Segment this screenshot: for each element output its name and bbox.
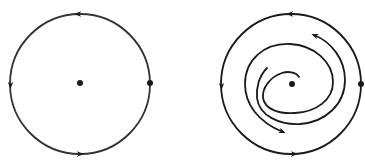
phase-portrait-canvas	[0, 0, 365, 166]
right-orbit-point	[358, 81, 364, 87]
left-panel	[10, 14, 153, 154]
left-orbit-point	[147, 80, 153, 86]
right-panel	[221, 14, 364, 154]
right-center-point	[289, 81, 295, 87]
left-center-point	[77, 80, 83, 86]
